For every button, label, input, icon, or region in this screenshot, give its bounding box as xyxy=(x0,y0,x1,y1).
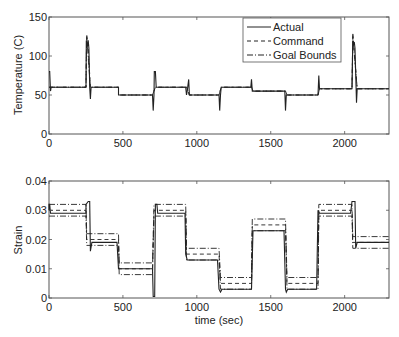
x-tick-label: 500 xyxy=(114,137,132,149)
y-tick-label: 150 xyxy=(29,11,47,23)
y-tick-label: 50 xyxy=(35,89,47,101)
legend: Actual Command Goal Bounds xyxy=(243,18,341,62)
y-tick-label: 0.02 xyxy=(26,234,47,246)
y-tick-label: 100 xyxy=(29,50,47,62)
y-tick-label: 0.01 xyxy=(26,263,47,275)
x-tick-label: 1000 xyxy=(185,137,209,149)
x-tick-label: 2000 xyxy=(332,137,356,149)
x-tick-label: 1500 xyxy=(258,137,282,149)
legend-command-label: Command xyxy=(273,35,324,47)
x-tick-label: 500 xyxy=(114,301,132,313)
x-tick-label: 1000 xyxy=(185,301,209,313)
legend-actual-label: Actual xyxy=(273,21,304,33)
legend-goal-label: Goal Bounds xyxy=(273,49,337,61)
top-y-axis-label: Temperature (C) xyxy=(12,35,24,115)
temperature-plot: 0500100015002000050100150 Temperature (C… xyxy=(12,11,389,149)
x-axis-label: time (sec) xyxy=(195,314,243,326)
figure: 0500100015002000050100150 Temperature (C… xyxy=(0,0,399,337)
bottom-y-axis-label: Strain xyxy=(12,226,24,255)
y-tick-label: 0 xyxy=(41,292,47,304)
y-tick-label: 0.03 xyxy=(26,204,47,216)
y-tick-label: 0.04 xyxy=(26,175,47,187)
strain-plot: 050010001500200000.010.020.030.04 Strain… xyxy=(12,175,389,326)
x-tick-label: 2000 xyxy=(332,301,356,313)
x-tick-label: 1500 xyxy=(258,301,282,313)
y-tick-label: 0 xyxy=(41,128,47,140)
